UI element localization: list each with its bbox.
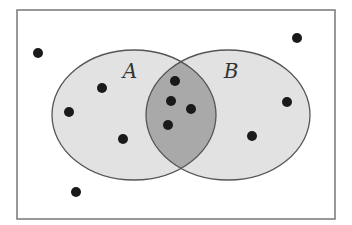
data-point-a-only — [64, 107, 74, 117]
data-point-a-only — [97, 83, 107, 93]
data-point-b-only — [247, 131, 257, 141]
set-b-label: B — [223, 59, 239, 83]
data-point-b-only — [282, 97, 292, 107]
data-point-a-and-b — [163, 120, 173, 130]
data-point-outside — [71, 187, 81, 197]
data-point-outside — [292, 33, 302, 43]
data-point-a-and-b — [170, 76, 180, 86]
data-point-a-only — [118, 134, 128, 144]
set-a-label: A — [121, 59, 137, 83]
venn-diagram: A B — [0, 0, 352, 225]
data-point-a-and-b — [166, 96, 176, 106]
data-point-a-and-b — [186, 104, 196, 114]
data-point-outside — [33, 48, 43, 58]
